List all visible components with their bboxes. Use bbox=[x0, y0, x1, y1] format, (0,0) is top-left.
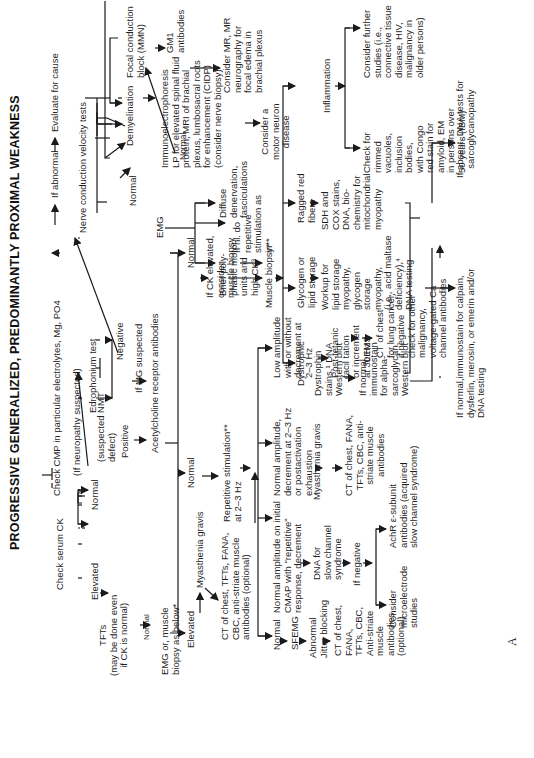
node-calpain-dysferlin: If normal,immunostain for calpain, dysfe… bbox=[455, 269, 487, 418]
node-check-rimmed-vacuoles: Check for rimmed vacuoles, inclusion bod… bbox=[362, 108, 467, 173]
node-nerve-conduction: Nerve conduction velocity tests bbox=[78, 102, 89, 233]
node-achr-antibodies: Acetylcholine receptor antibodies bbox=[150, 314, 161, 453]
node-if-mg-suspected: If MG suspected bbox=[134, 324, 145, 393]
node-dna-slow-channel: DNA for slow channel syndrome bbox=[312, 525, 344, 580]
node-myasthenia-gravis-2: Myasthenia gravis bbox=[312, 423, 323, 500]
node-ct-chest-3: CT of chest, FANA, TFTs, CBC, anti- stri… bbox=[344, 415, 386, 496]
node-suspected-nmt: (suspected NMT defect) bbox=[96, 392, 117, 462]
node-immunoelectrophoresis: Immunoelectrophoresis LP for elevated sp… bbox=[160, 57, 223, 168]
node-demyelination: Demyelination bbox=[125, 86, 136, 146]
node-consider-mr: Consider MR, MR neurography for focal ed… bbox=[222, 18, 264, 94]
node-normal-ncv: Normal bbox=[128, 175, 139, 206]
node-check-ck: Check serum CK bbox=[55, 518, 66, 590]
node-emg: EMG bbox=[155, 216, 166, 238]
node-normal-rs: Normal bbox=[272, 619, 283, 650]
node-sdh-cox: SDH and COX stains, DNA, bio- chemistry … bbox=[320, 174, 383, 231]
node-myasthenia-gravis-1: Myasthenia gravis bbox=[195, 511, 206, 588]
node-ragged-red: Ragged red fibers bbox=[296, 173, 317, 223]
node-gm1-antibodies: GM1 antibodies bbox=[165, 10, 186, 53]
node-low-amplitude: Low amplitude with or without decrement … bbox=[272, 317, 314, 378]
node-inflammation: Inflammation bbox=[322, 59, 333, 113]
node-microelectrode: Consider microelectrode studies bbox=[388, 566, 420, 628]
node-emg-or-biopsy: EMG or, muscle biopsy as below* bbox=[160, 604, 181, 675]
node-elevated-achr: Elevated bbox=[186, 611, 197, 648]
node-dystrophin-stains: Dystrophin stains,¹ DNA Western blot bbox=[313, 343, 345, 396]
node-consider-further: Consider further studies (i.e., connecti… bbox=[362, 5, 425, 78]
node-muscle-biopsy: Muscle biopsy* bbox=[264, 244, 275, 308]
node-sfemg: SFEMG bbox=[290, 616, 301, 650]
node-if-neuropathy: (If neuropathy suspected) bbox=[72, 368, 83, 476]
node-negative: Negative bbox=[115, 323, 126, 361]
diagram-title: PROGRESSIVE GENERALIZED, PREDOMINANTLY P… bbox=[8, 95, 22, 550]
node-alpha-sarcoglycan: If normal, immunostain for alpha- sarcog… bbox=[358, 342, 411, 396]
node-edrophonium: Edrophonium test bbox=[88, 339, 99, 413]
flowchart-stage: PROGRESSIVE GENERALIZED, PREDOMINANTLY P… bbox=[0, 0, 534, 758]
node-ct-chest-1: CT of chest, TFTs, FANA, CBC, anti-stria… bbox=[220, 533, 252, 640]
node-achr-epsilon: AchR ε-subunit antibodies (acquired slow… bbox=[388, 446, 420, 548]
node-glycogen-lipid: Glycogen or lipid storage bbox=[296, 257, 317, 308]
node-normal-amp-decrement: Normal amplitude, decrement at 2–3 Hz or… bbox=[272, 408, 314, 496]
node-evaluate-cause: Evaluate for cause bbox=[50, 53, 61, 132]
node-check-cmp: Check CMP in particular electrolytes, Mg… bbox=[52, 300, 63, 496]
node-normal-ck: Normal bbox=[90, 479, 101, 510]
node-workup-lipid: Workup for lipid storage myopathy, glyco… bbox=[320, 236, 415, 310]
node-if-negative: If negative bbox=[352, 542, 363, 586]
node-normal-achr-2: Normal bbox=[186, 237, 197, 268]
node-motor-neuron: Consider a motor neuron disease bbox=[260, 103, 292, 160]
node-abnormal-jitter: Abnormal Jitter blocking bbox=[308, 600, 329, 658]
node-if-abnormal: If abnormal bbox=[50, 150, 61, 198]
node-dystrophic: Dystrophic bbox=[296, 341, 307, 386]
node-tfts: TFTs (may be done even if CK is normal) bbox=[98, 595, 130, 676]
node-positive: Positive bbox=[120, 425, 131, 458]
node-normal-achr-1: Normal bbox=[186, 457, 197, 488]
node-focal-block: Focal conduction block (MMN) bbox=[125, 6, 146, 78]
node-normal-tft: Normal bbox=[142, 614, 153, 640]
node-normal-amp-repetitive: Normal amplitude on initial CMAP with "r… bbox=[272, 501, 304, 613]
node-repetitive-stimulation: Repetitive stimulation** at 2–3 Hz bbox=[222, 424, 243, 522]
figure-label: A bbox=[505, 637, 520, 646]
